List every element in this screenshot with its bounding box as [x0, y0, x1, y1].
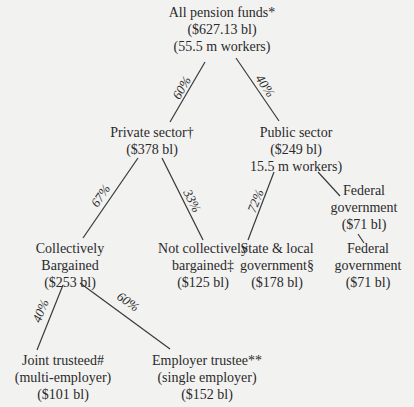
- node-value: ($253 bl): [36, 274, 104, 291]
- node-state-local-government: State & local government§ ($178 bl): [240, 240, 314, 291]
- node-label: government: [335, 257, 402, 274]
- node-workers: 15.5 m workers): [250, 158, 342, 175]
- node-value: ($152 bl): [152, 386, 262, 403]
- node-value: ($71 bl): [335, 274, 402, 291]
- node-label: State & local: [240, 240, 314, 257]
- node-employer-trustee: Employer trustee** (single employer) ($1…: [152, 352, 262, 403]
- node-workers: (55.5 m workers): [169, 38, 276, 55]
- node-value: ($125 bl): [158, 274, 248, 291]
- node-all-pension-funds: All pension funds* ($627.13 bl) (55.5 m …: [169, 4, 276, 55]
- node-federal-government-lower: Federal government ($71 bl): [335, 240, 402, 291]
- node-value: ($627.13 bl): [169, 21, 276, 38]
- node-value: ($249 bl): [250, 141, 342, 158]
- node-value: ($378 bl): [110, 141, 194, 158]
- node-label: Federal: [335, 240, 402, 257]
- node-label: government§: [240, 257, 314, 274]
- node-value: ($178 bl): [240, 274, 314, 291]
- node-label: Collectively: [36, 240, 104, 257]
- node-collectively-bargained: Collectively Bargained ($253 bl): [36, 240, 104, 291]
- node-joint-trusteed: Joint trusteed# (multi-employer) ($101 b…: [15, 352, 111, 403]
- node-value: ($101 bl): [15, 386, 111, 403]
- node-federal-government-upper: Federal government ($71 bl): [331, 182, 398, 233]
- node-private-sector: Private sector† ($378 bl): [110, 124, 194, 158]
- node-label: government: [331, 199, 398, 216]
- node-value: ($71 bl): [331, 216, 398, 233]
- node-label: Bargained: [36, 257, 104, 274]
- node-label: Private sector†: [110, 124, 194, 141]
- node-label: Employer trustee**: [152, 352, 262, 369]
- node-label: (multi-employer): [15, 369, 111, 386]
- node-label: (single employer): [152, 369, 262, 386]
- node-label: All pension funds*: [169, 4, 276, 21]
- node-label: Federal: [331, 182, 398, 199]
- node-label: Not collectively: [158, 240, 248, 257]
- node-label: Public sector: [250, 124, 342, 141]
- node-label: Joint trusteed#: [15, 352, 111, 369]
- node-public-sector: Public sector ($249 bl) 15.5 m workers): [250, 124, 342, 175]
- node-not-collectively-bargained: Not collectively bargained‡ ($125 bl): [158, 240, 248, 291]
- node-label: bargained‡: [158, 257, 248, 274]
